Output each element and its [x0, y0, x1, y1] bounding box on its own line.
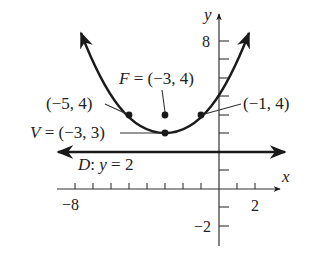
- point-focus: [162, 112, 169, 119]
- y-axis-label: y: [202, 5, 212, 24]
- x-axis: −8 2 x: [57, 167, 290, 214]
- y-tick-label-8: 8: [202, 33, 210, 50]
- point-left: [126, 112, 133, 119]
- x-tick-label-2: 2: [251, 197, 259, 214]
- y-tick-label-neg2: −2: [194, 218, 211, 235]
- label-vertex: V = (−3, 3): [30, 123, 105, 142]
- label-focus: F = (−3, 4): [118, 69, 194, 88]
- point-right: [198, 112, 205, 119]
- y-ticks: [219, 41, 229, 226]
- x-ticks: [75, 183, 255, 189]
- label-left-point: (−5, 4): [46, 94, 92, 113]
- directrix: D: y = 2: [58, 152, 285, 174]
- point-vertex: [162, 130, 169, 137]
- label-right-point: (−1, 4): [243, 94, 289, 113]
- directrix-label: D: y = 2: [77, 155, 133, 174]
- y-axis: 8 −2 y: [194, 5, 229, 246]
- x-axis-label: x: [281, 167, 290, 186]
- x-tick-label-neg8: −8: [62, 196, 79, 213]
- parabola-diagram: −8 2 x 8 −2 y D: y = 2: [0, 0, 315, 267]
